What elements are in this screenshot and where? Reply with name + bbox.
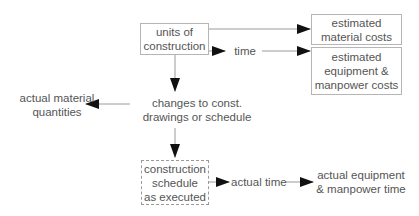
node-actual-time: actual time — [231, 175, 285, 189]
node-time: time — [228, 44, 262, 58]
node-text-line: construction — [143, 39, 205, 53]
node-text-line: actual material — [18, 91, 96, 105]
node-text-line: material costs — [321, 30, 392, 44]
node-text-line: equipment & — [324, 64, 389, 78]
node-text-line: time — [234, 45, 256, 57]
node-actual-material-quantities: actual material quantities — [18, 91, 96, 119]
node-text-line: & manpower time — [314, 182, 408, 196]
node-text-line: quantities — [18, 105, 96, 119]
node-text-line: construction — [144, 162, 206, 176]
node-text-line: schedule — [152, 176, 198, 190]
node-text-line: actual time — [231, 176, 287, 188]
node-units-of-construction: units of construction — [140, 23, 209, 55]
node-construction-schedule-as-executed: construction schedule as executed — [141, 160, 209, 205]
node-text-line: estimated — [332, 16, 382, 30]
node-text-line: actual equipment — [314, 168, 408, 182]
node-text-line: changes to const. — [134, 96, 260, 110]
node-text-line: drawings or schedule — [134, 110, 260, 124]
node-text-line: estimated — [332, 50, 382, 64]
node-text-line: manpower costs — [315, 78, 399, 92]
node-text-line: units of — [156, 25, 193, 39]
node-estimated-equipment-manpower-costs: estimated equipment & manpower costs — [311, 47, 402, 95]
node-actual-equipment-manpower-time: actual equipment & manpower time — [314, 168, 408, 196]
node-estimated-material-costs: estimated material costs — [311, 14, 402, 45]
node-text-line: as executed — [144, 190, 206, 204]
node-changes-to-drawings: changes to const. drawings or schedule — [134, 96, 260, 124]
